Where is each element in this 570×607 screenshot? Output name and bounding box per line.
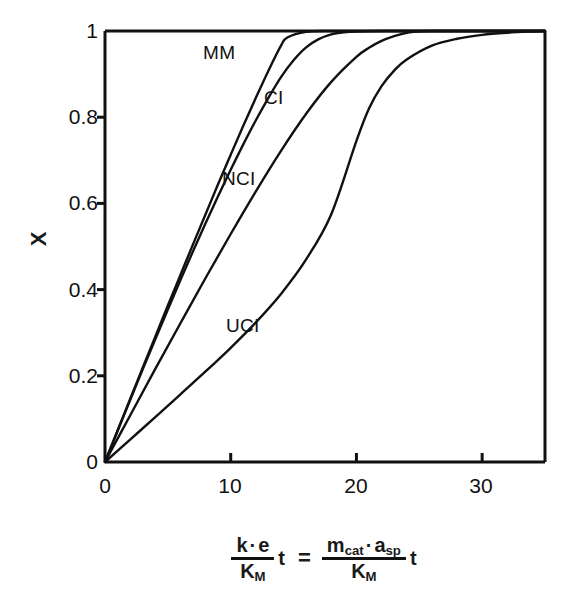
y-tick-label-0-4: 0.4 [38, 278, 98, 302]
x-tick-label-30: 30 [461, 474, 501, 498]
symbol-K-right-sub: M [366, 569, 377, 584]
symbol-dot-right: · [364, 534, 375, 556]
symbol-e: e [258, 534, 269, 556]
symbol-t-right: t [410, 547, 417, 570]
y-tick-label-0-8: 0.8 [38, 105, 98, 129]
fraction-left-numerator: k·e [231, 535, 274, 557]
curve-label-mm: MM [203, 42, 235, 64]
x-axis-label-formula: k·e KM t = mcat·asp KM t [105, 516, 545, 600]
x-tick-label-20: 20 [336, 474, 376, 498]
symbol-t-left: t [278, 547, 285, 570]
symbol-k: k [236, 534, 247, 556]
curve-label-uci: UCI [226, 315, 260, 337]
x-tick-label-10: 10 [210, 474, 250, 498]
symbol-K-right: K [351, 560, 365, 582]
fraction-right-numerator: mcat·asp [322, 535, 406, 557]
y-axis-label: X [26, 222, 52, 256]
fraction-right: mcat·asp KM [322, 535, 406, 582]
fraction-left-denominator: KM [235, 560, 270, 582]
symbol-a: a [374, 534, 385, 556]
symbol-K-left-sub: M [255, 569, 266, 584]
curve-label-ci: CI [264, 87, 284, 109]
x-tick-label-0: 0 [85, 474, 125, 498]
symbol-m-sub: cat [345, 543, 364, 558]
fraction-left: k·e KM [231, 535, 274, 582]
symbol-equals: = [298, 545, 311, 571]
symbol-a-sub: sp [386, 543, 401, 558]
curve-label-nci: NCI [222, 168, 256, 190]
symbol-dot-left: · [248, 534, 259, 556]
y-tick-label-0: 0 [58, 450, 98, 474]
symbol-m: m [327, 534, 345, 556]
chart-figure: 1 0.8 0.6 0.4 0.2 0 0 10 20 30 X MM CI N… [0, 0, 570, 607]
fraction-right-denominator: KM [346, 560, 381, 582]
y-tick-label-1: 1 [58, 19, 98, 43]
y-tick-label-0-2: 0.2 [38, 364, 98, 388]
symbol-K-left: K [240, 560, 254, 582]
y-tick-label-0-6: 0.6 [38, 191, 98, 215]
